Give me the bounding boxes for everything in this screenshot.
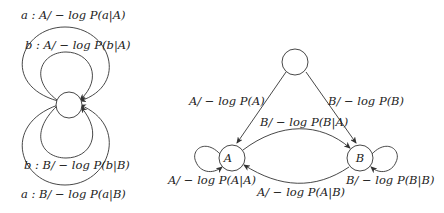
left-diagram: a : A/ − log P(a|A) b : A/ − log P(b|A) … <box>21 8 131 202</box>
label-loop-b-B: b : B/ − log P(b|B) <box>24 158 130 173</box>
label-start-A: A/ − log P(A) <box>188 94 265 108</box>
center-state-node <box>56 92 82 118</box>
label-B-A: A/ − log P(A|B) <box>256 185 345 200</box>
right-diagram: A B A/ − log P(A) B/ − log P(B) B/ − log… <box>167 49 434 200</box>
label-B-B: B/ − log P(B|B) <box>345 173 434 188</box>
label-loop-a-B: a : B/ − log P(a|B) <box>21 187 126 202</box>
label-A-B: B/ − log P(B|A) <box>259 115 348 130</box>
edge-A-B <box>243 129 350 150</box>
state-B-label: B <box>355 151 364 165</box>
label-loop-a-A: a : A/ − log P(a|A) <box>21 8 126 23</box>
automata-diagrams: a : A/ − log P(a|A) b : A/ − log P(b|A) … <box>0 0 444 213</box>
edge-A-A <box>195 146 222 171</box>
label-A-A: A/ − log P(A|A) <box>167 173 256 188</box>
edge-B-A <box>244 165 349 183</box>
start-state-node <box>282 49 308 75</box>
edge-B-B <box>371 146 397 171</box>
label-loop-b-A: b : A/ − log P(b|A) <box>25 38 131 53</box>
label-start-B: B/ − log P(B) <box>327 94 404 108</box>
state-A-label: A <box>223 151 232 165</box>
